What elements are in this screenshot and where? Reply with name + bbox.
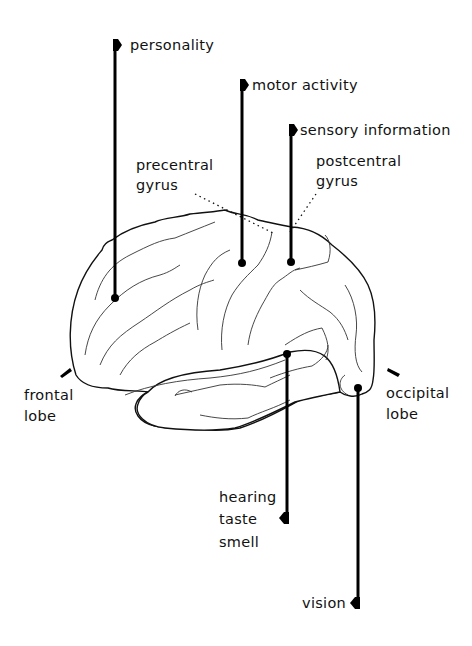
precentral-gyrus-label-line1: precentral xyxy=(136,154,213,176)
vision-pointer-dot xyxy=(354,384,362,392)
sensory-information-label: sensory information xyxy=(300,119,451,141)
vision-arrowhead-icon xyxy=(350,597,360,609)
temporal-arrowhead-icon xyxy=(279,512,289,524)
sensory-information-pointer-dot xyxy=(287,258,295,266)
taste-label: taste xyxy=(219,508,257,530)
precentral-gyrus-label-line2: gyrus xyxy=(136,174,178,196)
occipital-lobe-label-line2: lobe xyxy=(386,403,418,425)
vision-label: vision xyxy=(302,592,346,614)
occipital-lobe-label-line1: occipital xyxy=(386,382,449,404)
occipital-lobe-marker-icon xyxy=(387,368,400,377)
hearing-label: hearing xyxy=(219,486,276,508)
sensory-information-arrowhead-icon xyxy=(289,124,298,136)
frontal-lobe-label-line1: frontal xyxy=(24,384,74,406)
motor-activity-arrowhead-icon xyxy=(240,79,249,91)
brain-diagram: personality motor activity sensory infor… xyxy=(0,0,472,646)
personality-pointer-dot xyxy=(111,294,119,302)
personality-label: personality xyxy=(130,34,214,56)
frontal-lobe-label-line2: lobe xyxy=(24,405,56,427)
frontal-lobe-marker-icon xyxy=(60,368,72,378)
postcentral-gyrus-label-line2: gyrus xyxy=(316,170,358,192)
motor-activity-label: motor activity xyxy=(252,74,358,96)
temporal-pointer-dot xyxy=(283,350,291,358)
postcentral-gyrus-label-line1: postcentral xyxy=(316,150,401,172)
smell-label: smell xyxy=(219,531,259,553)
postcentral-gyrus-leader xyxy=(290,194,316,232)
personality-arrowhead-icon xyxy=(113,39,122,51)
motor-activity-pointer-dot xyxy=(238,259,246,267)
